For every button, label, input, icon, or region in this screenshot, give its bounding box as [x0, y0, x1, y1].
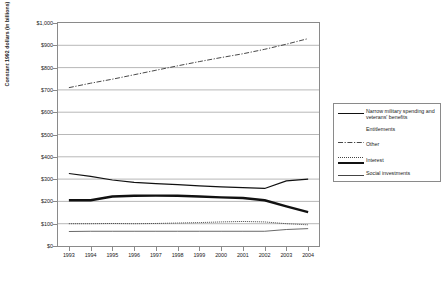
chart-legend: Narrow military spending and veterans' b… — [333, 103, 441, 182]
legend-item[interactable]: Other — [338, 142, 440, 154]
x-axis-tick-mark — [112, 247, 113, 251]
x-axis-tick-mark — [69, 247, 70, 251]
x-axis-tick-mark — [156, 247, 157, 251]
x-axis-tick-label: 2004 — [295, 252, 321, 258]
legend-item[interactable]: Entitlements — [338, 127, 440, 139]
series-line — [69, 196, 308, 213]
x-axis-tick-mark — [199, 247, 200, 251]
plot-svg — [58, 23, 319, 246]
legend-label: Interest — [366, 157, 440, 163]
plot-area — [57, 22, 320, 247]
legend-label: Entitlements — [366, 126, 440, 132]
legend-label: Other — [366, 141, 440, 147]
y-axis-title: Constant 1992 dollars (in billions) — [0, 0, 14, 104]
series-line — [69, 229, 308, 232]
legend-label: Narrow military spending and veterans' b… — [366, 108, 440, 120]
legend-item[interactable]: Interest — [338, 158, 440, 170]
x-axis-tick-mark — [134, 247, 135, 251]
legend-swatch — [338, 113, 364, 119]
chart-figure: Constant 1992 dollars (in billions) $1,0… — [0, 0, 446, 281]
x-axis-tick-mark — [286, 247, 287, 251]
legend-item[interactable]: Social investments — [338, 171, 440, 183]
legend-swatch — [338, 162, 364, 169]
x-axis-tick-mark — [91, 247, 92, 251]
y-axis-tick-labels: $1,000$900$800$700$600$500$400$300$200$1… — [22, 0, 53, 281]
y-axis-tick-label: $1,000 — [23, 20, 53, 26]
x-axis-tick-mark — [178, 247, 179, 251]
legend-item[interactable]: Narrow military spending and veterans' b… — [338, 109, 440, 121]
legend-swatch — [338, 175, 364, 181]
series-line — [69, 174, 308, 189]
legend-swatch — [338, 131, 364, 136]
y-axis-tick-label: $200 — [23, 198, 53, 204]
y-axis-tick-label: $400 — [23, 154, 53, 160]
y-axis-tick-label: $700 — [23, 87, 53, 93]
x-axis-tick-mark — [308, 247, 309, 251]
y-axis-tick-label: $600 — [23, 109, 53, 115]
series-line — [69, 39, 308, 88]
x-axis-tick-mark — [243, 247, 244, 251]
x-axis-tick-mark — [221, 247, 222, 251]
y-axis-tick-label: $900 — [23, 42, 53, 48]
series-line — [69, 221, 308, 224]
x-axis-tick-mark — [265, 247, 266, 251]
legend-label: Social investments — [366, 170, 440, 176]
y-axis-tick-label: $300 — [23, 176, 53, 182]
legend-swatch — [338, 146, 364, 151]
y-axis-tick-label: $500 — [23, 132, 53, 138]
y-axis-tick-label: $0 — [23, 243, 53, 249]
y-axis-tick-label: $800 — [23, 65, 53, 71]
y-axis-tick-label: $100 — [23, 221, 53, 227]
